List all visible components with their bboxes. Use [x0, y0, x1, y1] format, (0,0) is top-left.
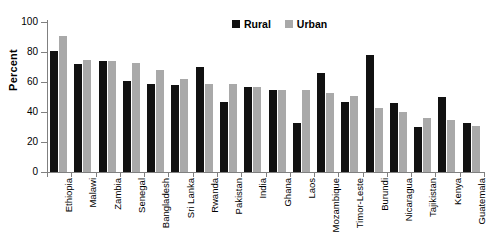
bar-urban	[83, 60, 91, 173]
bar-group	[244, 22, 264, 172]
bar-group	[196, 22, 216, 172]
bar-group	[390, 22, 410, 172]
bar-group	[123, 22, 143, 172]
bar-rural	[147, 84, 155, 173]
x-axis-tick	[484, 172, 485, 177]
bar-urban	[205, 84, 213, 173]
bar-chart: Percent 020406080100 EthiopiaMalawiZambi…	[0, 0, 493, 247]
x-axis-tick	[47, 172, 48, 177]
bar-group	[74, 22, 94, 172]
bar-urban	[302, 90, 310, 173]
x-axis-label: Ethiopia	[63, 178, 74, 212]
bar-group	[293, 22, 313, 172]
x-axis-tick	[435, 172, 436, 177]
x-axis-label: Guatemala	[476, 178, 487, 224]
bar-urban	[108, 61, 116, 172]
bar-rural	[390, 103, 398, 172]
x-axis-label: Nicaragua	[403, 178, 414, 221]
bar-group	[50, 22, 70, 172]
bar-rural	[463, 123, 471, 173]
bar-urban	[399, 112, 407, 172]
x-axis-tick	[363, 172, 364, 177]
x-axis-label: Kenya	[452, 178, 463, 205]
legend-item: Urban	[285, 18, 327, 30]
bar-rural	[50, 51, 58, 173]
x-axis-tick	[314, 172, 315, 177]
bar-group	[414, 22, 434, 172]
legend-swatch-rural	[232, 20, 240, 28]
bar-group	[317, 22, 337, 172]
bar-rural	[123, 81, 131, 173]
bar-rural	[74, 64, 82, 172]
x-axis-tick	[411, 172, 412, 177]
plot-area	[47, 22, 484, 172]
bar-rural	[171, 85, 179, 172]
x-axis-tick	[290, 172, 291, 177]
x-axis-label: Tajikistan	[427, 178, 438, 217]
x-axis-tick	[266, 172, 267, 177]
bar-urban	[447, 120, 455, 173]
chart-legend: RuralUrban	[232, 18, 327, 30]
bar-group	[463, 22, 483, 172]
bar-rural	[244, 87, 252, 173]
y-axis-title: Percent	[7, 35, 27, 105]
bar-urban	[375, 108, 383, 173]
bar-group	[341, 22, 361, 172]
bar-rural	[317, 73, 325, 172]
x-axis-tick	[120, 172, 121, 177]
x-axis-label: Laos	[306, 178, 317, 199]
x-axis-label: Malawi	[87, 178, 98, 208]
bar-urban	[59, 36, 67, 173]
bar-group	[438, 22, 458, 172]
bar-urban	[472, 126, 480, 173]
bar-rural	[341, 102, 349, 173]
legend-label: Rural	[244, 18, 271, 30]
legend-label: Urban	[297, 18, 327, 30]
x-axis-label: Burundi	[379, 178, 390, 211]
x-axis-label: Timor-Leste	[354, 178, 365, 228]
bar-urban	[278, 90, 286, 173]
bar-group	[147, 22, 167, 172]
x-axis-label: Rwanda	[209, 178, 220, 213]
x-axis-tick	[193, 172, 194, 177]
bar-rural	[438, 97, 446, 172]
x-axis-tick	[387, 172, 388, 177]
bar-group	[171, 22, 191, 172]
bar-rural	[220, 102, 228, 173]
x-axis-label: Bangladesh	[160, 178, 171, 228]
x-axis-label: Sri Lanka	[185, 178, 196, 218]
x-axis-label: India	[257, 178, 268, 199]
bar-rural	[366, 55, 374, 172]
x-axis-tick	[168, 172, 169, 177]
x-axis-tick	[217, 172, 218, 177]
bar-urban	[253, 87, 261, 173]
bar-group	[366, 22, 386, 172]
bar-group	[99, 22, 119, 172]
x-axis-tick	[96, 172, 97, 177]
legend-item: Rural	[232, 18, 271, 30]
x-axis-label: Senegal	[136, 178, 147, 213]
bar-rural	[293, 123, 301, 173]
bar-group	[220, 22, 240, 172]
bar-rural	[99, 61, 107, 172]
bar-urban	[132, 63, 140, 173]
x-axis-tick	[71, 172, 72, 177]
legend-swatch-urban	[285, 20, 293, 28]
bar-urban	[326, 93, 334, 173]
x-axis-label: Ghana	[282, 178, 293, 207]
bar-rural	[414, 127, 422, 172]
bar-urban	[180, 79, 188, 172]
bar-urban	[156, 70, 164, 172]
x-axis-label: Zambia	[112, 178, 123, 210]
bar-rural	[269, 90, 277, 173]
bar-urban	[423, 118, 431, 172]
bar-urban	[229, 84, 237, 173]
bar-group	[269, 22, 289, 172]
x-axis-tick	[460, 172, 461, 177]
bar-rural	[196, 67, 204, 172]
x-axis-label: Mozambique	[330, 178, 341, 232]
x-axis-label: Pakistan	[233, 178, 244, 214]
bar-urban	[350, 96, 358, 173]
x-axis-tick	[144, 172, 145, 177]
x-axis-tick	[338, 172, 339, 177]
